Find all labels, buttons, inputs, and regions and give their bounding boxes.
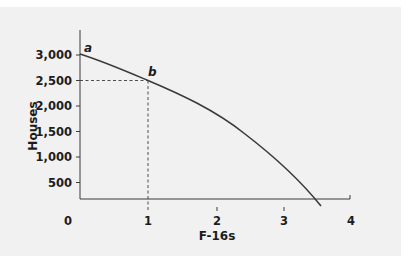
x-ticks: [217, 207, 284, 211]
y-tick-label-2500: 2,500: [36, 74, 72, 88]
x-axis-title: F-16s: [199, 229, 236, 243]
x-tick-label-1: 1: [144, 214, 152, 228]
y-tick-label-500: 500: [48, 176, 72, 190]
x-tick-label-3: 3: [280, 214, 288, 228]
y-tick-label-1500: 1,500: [36, 125, 72, 139]
ppf-chart: 3,000 2,500 2,000 1,500 1,000 500 0 1 2 …: [0, 0, 417, 259]
y-ticks: [76, 55, 80, 183]
point-label-a: a: [84, 41, 92, 55]
point-label-b: b: [148, 65, 157, 79]
y-tick-label-1000: 1,000: [36, 150, 72, 164]
y-tick-label-2000: 2,000: [36, 99, 72, 113]
x-tick-label-2: 2: [213, 214, 221, 228]
x-tick-label-0: 0: [64, 214, 72, 228]
x-tick-label-4: 4: [347, 214, 355, 228]
y-tick-label-3000: 3,000: [36, 48, 72, 62]
ppf-curve: [80, 54, 321, 206]
y-axis-title: Houses: [26, 101, 40, 150]
